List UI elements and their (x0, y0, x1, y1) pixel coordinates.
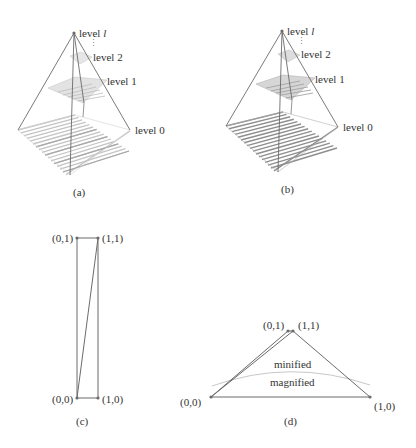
corner-label-0-0-d: (0,0) (180, 397, 201, 408)
region-label-magnified: magnified (270, 377, 315, 388)
corner-label-1-0-d: (1,0) (374, 401, 395, 412)
corner-label-1-1-d: (1,1) (298, 320, 319, 331)
quad-d-graphic (0, 0, 416, 448)
region-label-minified: minified (274, 359, 311, 370)
caption-d: (d) (284, 416, 297, 427)
corner-label-0-1-d: (0,1) (263, 320, 284, 331)
